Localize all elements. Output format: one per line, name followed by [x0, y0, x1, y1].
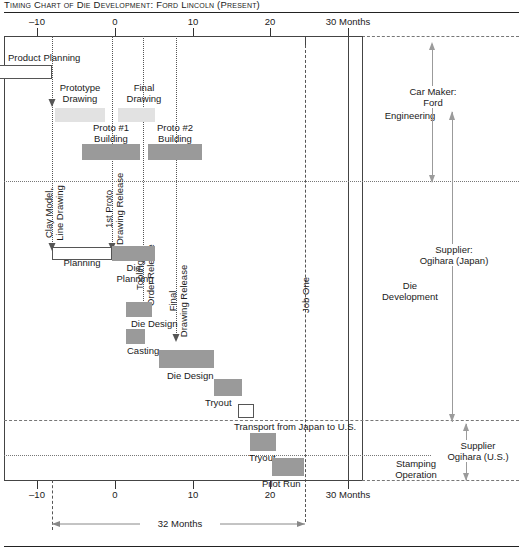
phase-label-die-development: Die Development: [362, 280, 458, 302]
task-bar-preliminary-planning[interactable]: [52, 247, 112, 260]
top-tick-label-3: 20: [250, 16, 290, 27]
bottom-tick-label-3: 20: [250, 489, 290, 500]
task-bar-product-planning[interactable]: [0, 65, 52, 79]
task-bar-prototype-drawing[interactable]: [55, 108, 105, 122]
divider-product-engineering: [4, 181, 519, 182]
chart-inner-border: [305, 36, 306, 45]
timing-chart-page: Timing Chart of Die Development: Ford Li…: [0, 0, 523, 552]
bottom-tick-label-2: 10: [173, 489, 213, 500]
bottom-rule: [4, 546, 519, 547]
bottom-tick-mark-3: [270, 481, 271, 489]
bottom-tick-mark-4: [348, 481, 349, 489]
top-tick-mark-0: [37, 28, 38, 36]
top-tick-mark-4: [348, 28, 349, 36]
bracket-line-supplier-japan: [452, 112, 453, 422]
task-bar-final-drawing[interactable]: [118, 108, 155, 122]
bracket-line-car-maker: [432, 44, 433, 181]
task-label-casting: Casting: [127, 345, 159, 356]
task-label-die-planning: Die: Planning: [105, 262, 165, 284]
bottom-axis-line: [4, 480, 362, 481]
task-label-die-design-1: Die Design: [131, 318, 177, 329]
top-axis-line-dashed-ext: [362, 36, 519, 37]
top-tick-label-1: 0: [95, 16, 135, 27]
thirty-month-line: [348, 36, 349, 480]
top-tick-mark-2: [193, 28, 194, 36]
top-tick-label-0: –10: [17, 16, 57, 27]
org-label-supplier-ogihara-japan: Supplier: Ogihara (Japan): [408, 244, 500, 266]
milestone-label-first-proto-drawing-release: 1st Proto Drawing Release: [103, 173, 125, 245]
task-bar-die-design-2[interactable]: [159, 350, 214, 368]
task-label-tryout-japan: Tryout: [205, 397, 232, 408]
task-label-product-planning: Product Planning: [8, 52, 80, 63]
bottom-tick-mark-0: [37, 481, 38, 489]
page-title: Timing Chart of Die Development: Ford Li…: [4, 0, 260, 10]
milestone-label-job-one: Job One: [300, 260, 311, 330]
task-bar-tryout-japan[interactable]: [214, 379, 242, 396]
task-bar-transport-japan-us[interactable]: [238, 404, 254, 418]
bottom-tick-mark-2: [193, 481, 194, 489]
task-bar-proto-2-building[interactable]: [148, 144, 202, 160]
org-label-supplier-ogihara-us: Supplier Ogihara (U.S.): [432, 440, 523, 462]
task-label-die-design-2: Die Design: [167, 370, 213, 381]
bottom-tick-label-1: 0: [95, 489, 135, 500]
bottom-tick-label-4: 30 Months: [312, 489, 384, 500]
top-tick-label-4: 30 Months: [312, 16, 384, 27]
task-bar-tryout-us[interactable]: [250, 433, 276, 451]
top-tick-label-2: 10: [173, 16, 213, 27]
task-label-transport-japan-us: Transport from Japan to U.S.: [234, 421, 356, 432]
task-bar-pilot-run[interactable]: [272, 458, 304, 476]
chart-left-border: [4, 36, 5, 480]
task-bar-die-design-1[interactable]: [126, 302, 152, 317]
top-axis-line: [4, 36, 362, 37]
org-label-car-maker-ford: Car Maker: Ford: [390, 86, 476, 108]
title-underline: [4, 12, 519, 13]
task-bar-proto-1-building[interactable]: [82, 144, 140, 160]
top-tick-mark-1: [115, 28, 116, 36]
task-label-final-drawing: Final Drawing: [104, 82, 184, 104]
divider-stamping-bottom: [362, 480, 519, 481]
bottom-tick-mark-1: [115, 481, 116, 489]
top-tick-mark-3: [270, 28, 271, 36]
bottom-tick-label-0: –10: [17, 489, 57, 500]
span-start-guide: [52, 480, 53, 530]
span-label-32-months: 32 Months: [140, 518, 220, 529]
milestone-label-clay-model-line-drawing: Clay Model, Line Drawing: [43, 178, 65, 248]
task-bar-die-planning[interactable]: [112, 246, 155, 261]
task-label-proto-2-building: Proto #2 Building: [135, 122, 215, 144]
task-bar-casting[interactable]: [126, 329, 145, 344]
